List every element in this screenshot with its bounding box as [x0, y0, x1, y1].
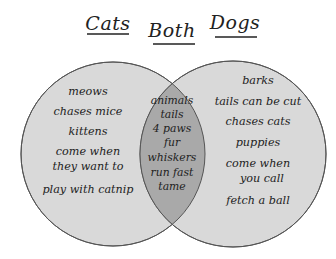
heading-both: Both — [147, 19, 195, 41]
list-item: tame — [158, 180, 185, 193]
list-item: run fast — [151, 166, 194, 179]
list-item: play with catnip — [42, 183, 133, 196]
heading-dogs: Dogs — [209, 11, 261, 33]
list-item: tails — [160, 108, 184, 121]
list-item: fetch a ball — [225, 194, 290, 207]
list-item: whiskers — [148, 151, 197, 164]
list-item: you call — [239, 172, 284, 185]
list-item: puppies — [236, 136, 281, 149]
list-item: kittens — [69, 125, 108, 138]
list-item: come when — [56, 145, 120, 158]
list-item: chases cats — [226, 115, 291, 128]
venn-diagram: Cats Both Dogs meows chases mice kittens… — [0, 0, 336, 259]
list-item: animals — [151, 94, 194, 107]
list-item: chases mice — [54, 105, 123, 118]
list-item: they want to — [53, 160, 124, 173]
list-item: 4 paws — [152, 122, 192, 135]
heading-cats: Cats — [85, 12, 130, 34]
list-item: come when — [226, 157, 290, 170]
list-item: fur — [163, 136, 181, 149]
list-item: tails can be cut — [215, 95, 302, 108]
list-item: barks — [242, 74, 274, 87]
list-item: meows — [68, 85, 108, 98]
